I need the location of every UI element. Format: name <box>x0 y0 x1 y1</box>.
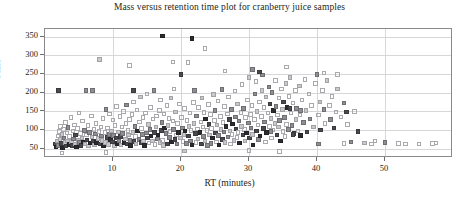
y-axis-title: Mass <box>0 59 2 78</box>
data-point <box>298 133 303 138</box>
data-point <box>417 142 422 147</box>
data-point <box>258 134 263 139</box>
data-point <box>203 117 208 122</box>
data-point <box>237 119 242 124</box>
data-point <box>223 140 228 145</box>
data-point <box>111 118 116 123</box>
data-point <box>342 141 347 146</box>
data-point <box>257 70 262 75</box>
data-point <box>250 103 255 108</box>
y-tick-label: 50 <box>8 142 38 152</box>
scatter-plot-figure: Mass versus retention time plot for cran… <box>0 0 459 198</box>
data-point <box>320 88 325 93</box>
data-point <box>188 111 193 116</box>
data-point <box>268 102 273 107</box>
data-point <box>80 119 85 124</box>
y-tick-label: 350 <box>8 30 38 40</box>
data-point <box>262 105 267 110</box>
data-point <box>253 92 258 97</box>
data-point <box>104 150 109 155</box>
data-point <box>143 111 148 116</box>
data-point <box>196 137 201 142</box>
data-point <box>230 122 235 127</box>
data-point <box>208 112 213 117</box>
data-point <box>158 98 163 103</box>
data-point <box>191 100 196 105</box>
data-point <box>396 141 401 146</box>
data-point <box>160 34 165 39</box>
data-point <box>318 128 323 133</box>
data-point <box>211 92 216 97</box>
data-point <box>223 69 228 74</box>
data-point <box>203 46 208 51</box>
data-point <box>362 141 367 146</box>
data-point <box>84 88 89 93</box>
data-point <box>244 131 249 136</box>
data-point <box>206 102 211 107</box>
data-point <box>274 104 279 109</box>
data-point <box>175 142 180 147</box>
data-point <box>277 149 282 154</box>
data-point <box>148 105 153 110</box>
data-point <box>257 100 262 105</box>
data-point <box>179 115 184 120</box>
data-point <box>120 131 125 136</box>
data-point <box>403 142 408 147</box>
data-point <box>127 117 132 122</box>
data-point <box>124 103 129 108</box>
data-point <box>281 100 286 105</box>
data-point <box>173 110 178 115</box>
data-point <box>259 114 264 119</box>
data-point <box>97 57 102 62</box>
data-point <box>166 123 171 128</box>
data-point <box>186 134 191 139</box>
data-point <box>154 125 159 130</box>
data-point <box>217 143 222 148</box>
gridline-horizontal <box>45 37 451 38</box>
data-point <box>127 63 132 68</box>
data-point <box>288 106 293 111</box>
gridline-horizontal <box>45 55 451 56</box>
data-point <box>107 112 112 117</box>
data-point <box>60 151 65 156</box>
data-point <box>284 81 289 86</box>
data-point <box>216 99 221 104</box>
data-point <box>284 122 289 127</box>
data-point <box>287 94 292 99</box>
data-point <box>430 141 435 146</box>
data-point <box>279 87 284 92</box>
data-point <box>128 143 133 148</box>
data-point <box>235 102 240 107</box>
data-point <box>252 117 257 122</box>
data-point <box>130 112 135 117</box>
data-point <box>316 113 321 118</box>
data-point <box>240 82 245 87</box>
data-point <box>190 36 195 41</box>
data-point <box>182 106 187 111</box>
data-point <box>342 101 347 106</box>
data-point <box>209 141 214 146</box>
y-tick-label: 150 <box>8 105 38 115</box>
data-point <box>247 148 252 153</box>
data-point <box>226 95 231 100</box>
data-point <box>263 140 268 145</box>
data-point <box>328 117 333 122</box>
data-point <box>308 117 313 122</box>
data-point <box>303 77 308 82</box>
x-tick-mark <box>316 157 317 161</box>
data-point <box>269 116 274 121</box>
data-point <box>225 112 230 117</box>
data-point <box>192 121 197 126</box>
data-point <box>307 92 312 97</box>
data-point <box>273 78 278 83</box>
data-point <box>330 94 335 99</box>
data-point <box>176 130 181 135</box>
data-point <box>289 111 294 116</box>
data-point <box>266 111 271 116</box>
data-point <box>313 81 318 86</box>
data-point <box>101 116 106 121</box>
data-point <box>239 110 244 115</box>
data-point <box>171 60 176 65</box>
data-point <box>192 88 197 93</box>
data-point <box>56 88 61 93</box>
